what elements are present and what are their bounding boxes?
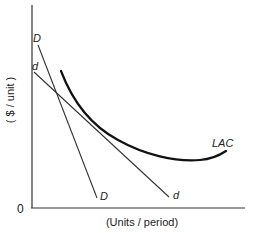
economics-diagram: 0 ( $ / unit ) (Units / period) D D d d … — [0, 0, 254, 233]
demand-d-label-top: d — [32, 60, 39, 72]
lac-curve — [61, 71, 226, 160]
x-axis-label: (Units / period) — [106, 216, 178, 228]
y-axis-label: ( $ / unit ) — [4, 77, 16, 123]
demand-D-label-bottom: D — [100, 190, 108, 202]
demand-curve-d — [34, 72, 169, 197]
origin-label: 0 — [17, 202, 24, 216]
demand-D-label-top: D — [33, 32, 41, 44]
demand-d-label-bottom: d — [173, 189, 180, 201]
lac-label: LAC — [212, 137, 233, 149]
